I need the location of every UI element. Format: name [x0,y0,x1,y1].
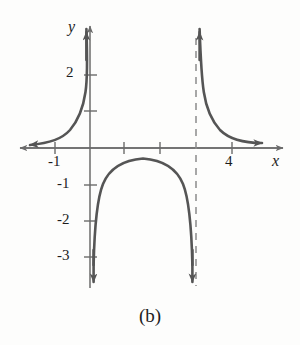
x-tick-label-4: 4 [225,153,233,170]
graph-plot [0,0,300,345]
figure-container: y x -1 4 2 -1 -2 -3 (b) [0,0,300,345]
figure-caption: (b) [0,305,300,327]
y-tick-label-neg-2: -2 [57,211,70,228]
curve-left-branch [30,29,87,145]
curve-middle-branch [94,159,193,266]
y-tick-label-neg-1: -1 [57,175,70,192]
curve-right-branch [200,29,262,143]
y-tick-label-neg-3: -3 [57,247,70,264]
x-axis-label: x [272,152,279,170]
x-tick-label-neg-1: -1 [48,153,61,170]
y-axis-label: y [68,18,75,36]
y-tick-label-2: 2 [66,64,74,81]
